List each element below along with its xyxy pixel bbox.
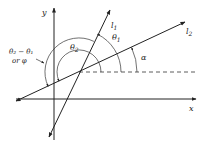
theta2-arc bbox=[57, 50, 101, 81]
line-l1 bbox=[49, 10, 110, 137]
alpha-label: α bbox=[141, 53, 147, 62]
phi-pointer-arrow bbox=[36, 59, 44, 63]
x-axis-label: x bbox=[189, 104, 194, 113]
alpha-arc bbox=[132, 48, 137, 72]
phi-label: or φ bbox=[12, 57, 27, 65]
l2-label: l2 bbox=[186, 27, 193, 37]
theta2-label: θ2 bbox=[70, 43, 79, 53]
l1-label: l1 bbox=[111, 21, 117, 31]
angle-between-lines-diagram: y x l1 l2 θ1 α θ2 θ₂ − θ₁ or φ bbox=[0, 0, 203, 144]
y-axis-label: y bbox=[41, 8, 47, 17]
theta-difference-label: θ₂ − θ₁ bbox=[9, 48, 34, 56]
theta1-label: θ1 bbox=[112, 33, 121, 43]
